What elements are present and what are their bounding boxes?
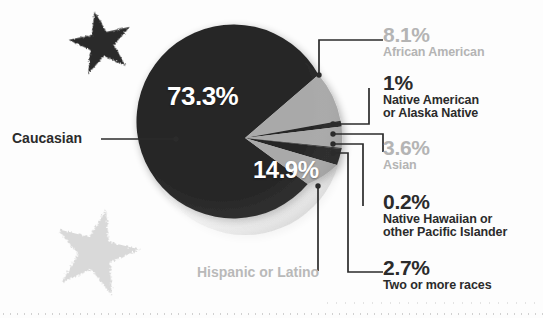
callout-african-american: 8.1% African American <box>383 24 484 59</box>
callout-value: 8.1% <box>383 24 484 46</box>
callout-native-hawaiian: 0.2% Native Hawaiian or other Pacific Is… <box>383 191 507 239</box>
slice-label-hispanic: Hispanic or Latino <box>197 264 319 280</box>
bottom-dotted-rule-secondary <box>323 302 543 304</box>
callout-asian: 3.6% Asian <box>383 137 430 172</box>
callout-value: 0.2% <box>383 191 507 213</box>
infographic-pie-chart: 73.3% 14.9% Caucasian Hispanic or Latino… <box>0 0 543 318</box>
callout-native-american: 1% Native American or Alaska Native <box>383 72 479 120</box>
callout-value: 3.6% <box>383 137 430 159</box>
callout-name-line1: Native Hawaiian or <box>383 213 507 226</box>
callout-two-or-more-races: 2.7% Two or more races <box>383 257 492 292</box>
callout-name-line1: Asian <box>383 159 430 172</box>
bottom-dotted-rule <box>0 313 543 315</box>
callout-name-line1: African American <box>383 46 484 59</box>
callout-name-line1: Native American <box>383 94 479 107</box>
callout-name-line2: or Alaska Native <box>383 107 479 120</box>
slice-value-hispanic: 14.9% <box>253 156 319 184</box>
callout-value: 2.7% <box>383 257 492 279</box>
slice-value-caucasian: 73.3% <box>167 81 238 112</box>
callout-value: 1% <box>383 72 479 94</box>
callout-name-line2: other Pacific Islander <box>383 226 507 239</box>
callout-name-line1: Two or more races <box>383 279 492 292</box>
slice-label-caucasian: Caucasian <box>12 130 82 146</box>
